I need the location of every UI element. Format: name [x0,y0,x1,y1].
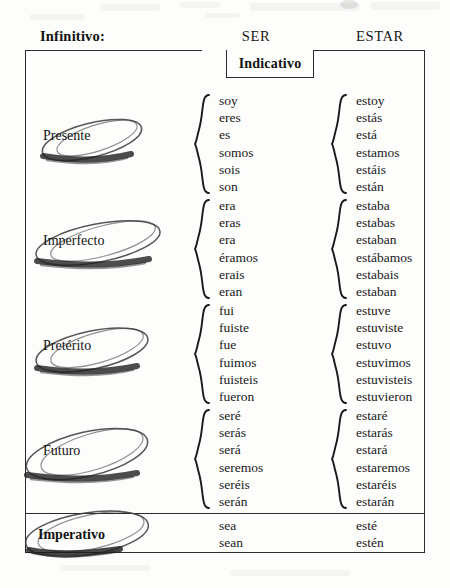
tense-label: Imperfecto [43,233,104,249]
table-header: Infinitivo: SER ESTAR [0,28,450,48]
verb-form: esté [356,517,384,534]
tense-block-presente: Presentesoyeresessomossoissonestoyestáse… [25,88,425,193]
verb-form: estoy [356,92,400,109]
scan-artifact [60,565,150,571]
verb-form: fui [219,302,258,319]
verb-form: estarán [356,493,410,510]
verb-form-list: estaréestarásestaráestaremosestaréisesta… [356,407,410,510]
indicativo-label: Indicativo [239,56,302,72]
verb-form: éramos [219,249,258,266]
verb-form-list: estabaestabasestabanestábamosestabaisest… [356,197,412,300]
verb-form: estaremos [356,459,410,476]
verb-form: estén [356,534,384,551]
verb-form: fue [219,336,258,353]
verb-form: erais [219,266,258,283]
verb-form: estarás [356,424,410,441]
scan-artifact [100,4,160,11]
curly-brace-icon [193,302,215,406]
imperativo-row: Imperativo seasean estéestén [25,513,425,553]
verb-form: es [219,126,254,143]
imperativo-forms-estar: estéestén [356,517,384,551]
tense-label: Pretérito [43,338,91,354]
verb-form: fuiste [219,319,258,336]
indicativo-mood-box: Indicativo [226,50,314,78]
verb-form-list: fuifuistefuefuimosfuisteisfueron [219,302,258,405]
verb-form-list: seréserásseráseremosseréisserán [219,407,263,510]
tense-label: Futuro [43,443,80,459]
tense-label: Presente [43,128,90,144]
verb-form: somos [219,144,254,161]
verb-form: está [356,126,400,143]
verb-form-list: estuveestuvisteestuvoestuvimosestuvistei… [356,302,412,405]
verb-form: soy [219,92,254,109]
verb-form: estaréis [356,476,410,493]
column-header-estar: ESTAR [320,28,440,45]
verb-form: estaba [356,197,412,214]
verb-form: estuvisteis [356,371,412,388]
imperativo-forms-ser: seasean [219,517,243,551]
curly-brace-icon [193,197,215,301]
tense-block-futuro: Futuroseréserásseráseremosseréisseránest… [25,403,425,508]
verb-form: estábamos [356,249,412,266]
verb-form: estará [356,441,410,458]
verb-form-list: eraeraseraéramoseraiseran [219,197,258,300]
verb-form: era [219,231,258,248]
verb-form: será [219,441,263,458]
verb-form: fuisteis [219,371,258,388]
worksheet-page: Infinitivo: SER ESTAR Indicativo Present… [0,0,450,588]
scan-artifact [205,13,240,18]
verb-form: estuvimos [356,354,412,371]
scan-artifact [250,3,360,11]
handwritten-oval-futuro [17,425,157,483]
verb-form: seremos [219,459,263,476]
scan-artifact [180,2,220,8]
verb-form: sea [219,517,243,534]
verb-form: sean [219,534,243,551]
curly-brace-icon [193,407,215,511]
scan-artifact [30,14,85,20]
verb-form: estaré [356,407,410,424]
scan-artifact [230,570,350,576]
verb-form: estuviste [356,319,412,336]
verb-form: estabas [356,214,412,231]
curly-brace-icon [193,92,215,196]
verb-form: estamos [356,144,400,161]
verb-form: estuvo [356,336,412,353]
verb-form-list: soyeresessomossoisson [219,92,254,195]
curly-brace-icon [330,197,352,301]
curly-brace-icon [330,407,352,511]
verb-form: sois [219,161,254,178]
verb-form: serás [219,424,263,441]
curly-brace-icon [330,92,352,196]
imperativo-label: Imperativo [38,527,105,543]
verb-form: seré [219,407,263,424]
scan-artifact [340,0,358,9]
verb-form-list: estoyestásestáestamosestáisestán [356,92,400,195]
tense-block-imperfecto: Imperfectoeraeraseraéramoseraiseranestab… [25,193,425,298]
scan-artifact [370,2,440,10]
tense-block-preterito: Pretéritofuifuistefuefuimosfuisteisfuero… [25,298,425,403]
verb-form: fuimos [219,354,258,371]
verb-form: seréis [219,476,263,493]
verb-form: estáis [356,161,400,178]
column-header-ser: SER [196,28,316,45]
verb-form: estaban [356,231,412,248]
verb-form: era [219,197,258,214]
verb-form: estabais [356,266,412,283]
curly-brace-icon [330,302,352,406]
verb-form: estás [356,109,400,126]
verb-form: estuve [356,302,412,319]
verb-form: eras [219,214,258,231]
verb-form: eres [219,109,254,126]
infinitivo-label: Infinitivo: [40,28,105,45]
verb-form: serán [219,493,263,510]
